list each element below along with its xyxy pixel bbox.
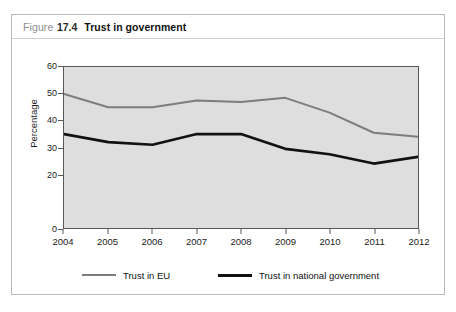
legend-swatch-trust-in-eu bbox=[82, 274, 116, 276]
x-axis-tick-mark bbox=[285, 229, 286, 234]
legend-item-trust-in-eu: Trust in EU bbox=[82, 267, 170, 283]
x-axis-tick-mark bbox=[63, 229, 64, 234]
y-axis-tick-label: 30 bbox=[47, 143, 57, 153]
y-axis-tick-labels: 02030405060 bbox=[26, 66, 57, 229]
y-axis-tick-label: 50 bbox=[47, 88, 57, 98]
x-axis-tick-mark bbox=[196, 229, 197, 234]
chart-legend: Trust in EU Trust in national government bbox=[63, 267, 419, 283]
x-axis-tick-labels: 200420052006200720082009201020112012 bbox=[63, 236, 419, 250]
chart-region: Percentage 02030405060 20042005200620072… bbox=[12, 39, 444, 294]
x-axis-tick-mark bbox=[152, 229, 153, 234]
figure-caption-bar: Figure 17.4 Trust in government bbox=[12, 15, 444, 39]
y-axis-tick-label: 40 bbox=[47, 115, 57, 125]
x-axis-tick-label: 2011 bbox=[364, 236, 384, 247]
y-axis-tick-label: 60 bbox=[47, 61, 57, 71]
legend-label-trust-in-national-government: Trust in national government bbox=[259, 270, 379, 281]
series-line bbox=[64, 134, 418, 164]
x-axis-tick-marks bbox=[63, 229, 419, 234]
x-axis-tick-label: 2012 bbox=[408, 236, 429, 247]
x-axis-tick-label: 2009 bbox=[275, 236, 296, 247]
x-axis-tick-mark bbox=[241, 229, 242, 234]
series-line bbox=[64, 94, 418, 137]
x-axis-tick-label: 2006 bbox=[141, 236, 162, 247]
x-axis-tick-mark bbox=[330, 229, 331, 234]
x-axis-tick-mark bbox=[419, 229, 420, 234]
x-axis-tick-label: 2007 bbox=[186, 236, 207, 247]
figure-title: Trust in government bbox=[84, 21, 186, 33]
x-axis-tick-mark bbox=[107, 229, 108, 234]
x-axis-tick-label: 2008 bbox=[230, 236, 251, 247]
figure-number: 17.4 bbox=[57, 21, 77, 33]
figure-label-word: Figure bbox=[23, 21, 53, 33]
x-axis-tick-label: 2004 bbox=[52, 236, 73, 247]
y-axis-tick-label: 20 bbox=[47, 170, 57, 180]
x-axis-tick-mark bbox=[374, 229, 375, 234]
legend-item-trust-in-national-government: Trust in national government bbox=[218, 267, 379, 283]
figure-container: Figure 17.4 Trust in government Percenta… bbox=[11, 14, 445, 295]
x-axis-tick-label: 2010 bbox=[319, 236, 340, 247]
legend-label-trust-in-eu: Trust in EU bbox=[123, 270, 170, 281]
x-axis-tick-label: 2005 bbox=[97, 236, 118, 247]
plot-area bbox=[63, 66, 419, 229]
plot-lines bbox=[64, 67, 418, 228]
legend-swatch-trust-in-national-government bbox=[218, 274, 252, 277]
